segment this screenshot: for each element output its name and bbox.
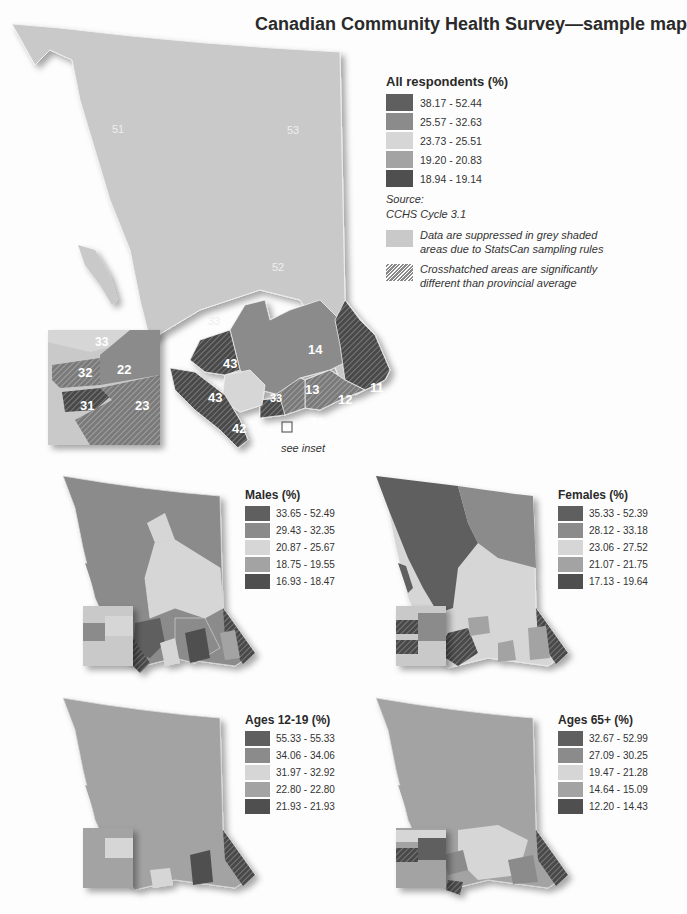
males-legend: Males (%) 33.65 - 52.49 29.43 - 32.35 20… (245, 488, 335, 590)
ages-12-19-legend: Ages 12-19 (%) 55.33 - 55.33 34.06 - 34.… (245, 713, 335, 815)
legend-row: 33.65 - 52.49 (245, 505, 335, 522)
legend-row: 32.67 - 52.99 (558, 730, 648, 747)
females-legend: Females (%) 35.33 - 52.39 28.12 - 33.18 … (558, 488, 648, 590)
legend-row: 22.80 - 22.80 (245, 781, 335, 798)
legend-row: 18.75 - 19.55 (245, 556, 335, 573)
svg-text:52: 52 (272, 261, 284, 273)
legend-row: 31.97 - 32.92 (245, 764, 335, 781)
legend-row: 55.33 - 55.33 (245, 730, 335, 747)
svg-text:21: 21 (310, 415, 324, 430)
ages-65-plus-legend: Ages 65+ (%) 32.67 - 52.99 27.09 - 30.25… (558, 713, 648, 815)
svg-text:42: 42 (232, 421, 246, 436)
svg-text:14: 14 (308, 342, 323, 357)
main-legend: All respondents (%) 38.17 - 52.44 25.57 … (386, 74, 603, 290)
legend-title: All respondents (%) (386, 74, 603, 89)
legend-row: 35.33 - 52.39 (558, 505, 648, 522)
legend-row: 19.47 - 21.28 (558, 764, 648, 781)
crosshatch-swatch (386, 264, 413, 281)
svg-text:12: 12 (338, 392, 352, 407)
legend-row: 38.17 - 52.44 (386, 93, 603, 112)
svg-text:22: 22 (117, 362, 131, 377)
legend-row: 23.06 - 27.52 (558, 539, 648, 556)
svg-text:51: 51 (112, 123, 124, 135)
see-inset-label: see inset (281, 442, 325, 454)
legend-row: 21.07 - 21.75 (558, 556, 648, 573)
legend-row: 25.57 - 32.63 (386, 112, 603, 131)
source-value: CCHS Cycle 3.1 (386, 207, 603, 222)
source-label: Source: (386, 192, 603, 207)
legend-row: 28.12 - 33.18 (558, 522, 648, 539)
svg-text:33: 33 (270, 392, 282, 404)
legend-row: 27.09 - 30.25 (558, 747, 648, 764)
legend-row: 23.73 - 25.51 (386, 131, 603, 150)
svg-text:43: 43 (208, 390, 222, 405)
legend-row: 12.20 - 14.43 (558, 798, 648, 815)
legend-row: 18.94 - 19.14 (386, 169, 603, 188)
crosshatch-note: Crosshatched areas are significantlydiff… (386, 262, 603, 290)
legend-row: 16.93 - 18.47 (245, 573, 335, 590)
svg-text:41: 41 (255, 441, 269, 456)
legend-row: 34.06 - 34.06 (245, 747, 335, 764)
legend-row: 21.93 - 21.93 (245, 798, 335, 815)
svg-text:43: 43 (223, 356, 237, 371)
svg-text:11: 11 (370, 380, 384, 395)
svg-text:32: 32 (78, 365, 92, 380)
legend-row: 19.20 - 20.83 (386, 150, 603, 169)
svg-text:33: 33 (95, 335, 109, 349)
legend-row: 14.64 - 15.09 (558, 781, 648, 798)
svg-text:53: 53 (287, 124, 299, 136)
inset-locator-box (282, 422, 292, 432)
suppressed-swatch (386, 230, 413, 247)
svg-text:31: 31 (80, 398, 94, 413)
svg-text:23: 23 (135, 398, 149, 413)
svg-text:33: 33 (208, 315, 220, 327)
legend-row: 29.43 - 32.35 (245, 522, 335, 539)
legend-row: 20.87 - 25.67 (245, 539, 335, 556)
svg-text:13: 13 (305, 382, 319, 397)
legend-row: 17.13 - 19.64 (558, 573, 648, 590)
suppressed-note: Data are suppressed in grey shadedareas … (386, 228, 603, 256)
main-map: 51 53 52 33 14 43 43 11 12 13 33 21 42 4… (0, 0, 400, 470)
